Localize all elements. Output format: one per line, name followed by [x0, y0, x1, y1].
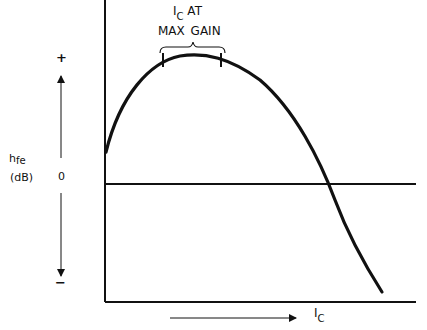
hfe-gain-curve [106, 55, 382, 292]
zero-label: 0 [58, 171, 65, 183]
max-gain-brace [160, 42, 225, 53]
hfe-label: hfe [9, 153, 26, 165]
ic-at-label: IC AT [173, 5, 202, 18]
plus-label: + [56, 52, 67, 64]
max-gain-label: MAX GAIN [158, 25, 221, 37]
db-unit-label: (dB) [10, 172, 33, 184]
ic-axis-label: IC [314, 307, 325, 320]
minus-label: − [55, 277, 66, 289]
